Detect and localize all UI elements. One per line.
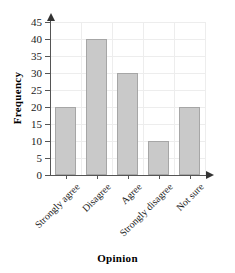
y-tick-mark <box>45 39 50 40</box>
bar-agree <box>117 73 138 175</box>
clipped-title-remnant <box>24 0 134 2</box>
gridline-horizontal <box>50 39 205 40</box>
y-tick-mark <box>45 107 50 108</box>
frequency-bar-chart: 454035302520151050 Strongly agreeDisagre… <box>0 0 235 273</box>
x-tick-mark <box>128 175 129 179</box>
x-axis-line <box>50 175 209 176</box>
plot-area <box>50 22 205 175</box>
gridline-vertical <box>205 22 206 175</box>
bar-strongly-agree <box>55 107 76 175</box>
y-tick-label: 5 <box>2 153 42 164</box>
y-tick-label: 45 <box>2 17 42 28</box>
x-axis-arrow-icon <box>206 171 214 179</box>
y-tick-mark <box>45 141 50 142</box>
gridline-vertical <box>174 22 175 175</box>
gridline-horizontal <box>50 56 205 57</box>
y-tick-mark <box>45 175 50 176</box>
y-axis-line <box>50 19 51 176</box>
y-axis-title: Frequency <box>11 53 23 143</box>
x-tick-mark <box>97 175 98 179</box>
x-tick-mark <box>66 175 67 179</box>
gridline-vertical <box>143 22 144 175</box>
bar-not-sure <box>179 107 200 175</box>
y-axis-arrow-icon <box>47 13 55 21</box>
y-tick-mark <box>45 56 50 57</box>
y-tick-mark <box>45 90 50 91</box>
gridline-horizontal <box>50 22 205 23</box>
x-axis-title: Opinion <box>0 252 235 264</box>
y-tick-label: 40 <box>2 34 42 45</box>
y-tick-mark <box>45 73 50 74</box>
y-tick-mark <box>45 22 50 23</box>
y-tick-mark <box>45 124 50 125</box>
y-tick-mark <box>45 158 50 159</box>
bar-strongly-disagree <box>148 141 169 175</box>
gridline-vertical <box>112 22 113 175</box>
gridline-vertical <box>81 22 82 175</box>
y-tick-label: 0 <box>2 170 42 181</box>
x-tick-mark <box>159 175 160 179</box>
bar-disagree <box>86 39 107 175</box>
x-tick-mark <box>190 175 191 179</box>
